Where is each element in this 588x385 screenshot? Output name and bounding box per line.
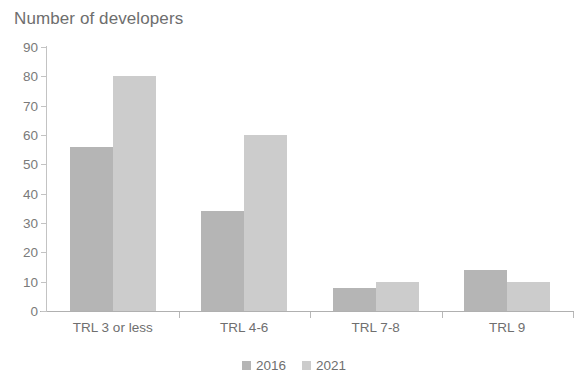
y-axis-tick-mark — [41, 47, 47, 48]
x-axis-tick-mark — [442, 312, 443, 318]
y-axis-tick-label: 90 — [23, 40, 38, 55]
legend-label: 2021 — [316, 358, 346, 373]
legend-item-2021[interactable]: 2021 — [302, 358, 346, 373]
x-axis-tick-mark — [310, 312, 311, 318]
legend-swatch-icon — [242, 361, 251, 370]
y-axis-tick-mark — [41, 282, 47, 283]
bar-2021-trl-4-6 — [244, 135, 287, 311]
y-axis-tick-mark — [41, 194, 47, 195]
bar-group — [201, 47, 287, 311]
x-axis-category-label: TRL 4-6 — [220, 320, 268, 335]
y-axis-tick-mark — [41, 223, 47, 224]
bar-group — [70, 47, 156, 311]
bar-2021-trl-7-8 — [376, 282, 419, 311]
x-axis-category-label: TRL 3 or less — [73, 320, 153, 335]
legend-item-2016[interactable]: 2016 — [242, 358, 286, 373]
y-axis-tick-label: 80 — [23, 69, 38, 84]
x-axis-category-label: TRL 9 — [489, 320, 525, 335]
chart-legend: 20162021 — [0, 358, 588, 373]
x-axis-tick-mark — [573, 312, 574, 318]
bar-2016-trl-3-or-less — [70, 147, 113, 311]
legend-label: 2016 — [256, 358, 286, 373]
y-axis-tick-label: 0 — [30, 304, 38, 319]
y-axis-tick-label: 20 — [23, 245, 38, 260]
y-axis-tick-label: 70 — [23, 98, 38, 113]
bar-2016-trl-7-8 — [333, 288, 376, 311]
y-axis-tick-label: 60 — [23, 128, 38, 143]
y-axis-tick-label: 30 — [23, 216, 38, 231]
bar-group — [464, 47, 550, 311]
x-axis-tick-mark — [179, 312, 180, 318]
legend-swatch-icon — [302, 361, 311, 370]
bar-2021-trl-9 — [507, 282, 550, 311]
y-axis-tick-label: 50 — [23, 157, 38, 172]
y-axis-tick-mark — [41, 135, 47, 136]
y-axis-tick-label: 40 — [23, 186, 38, 201]
y-axis-tick-mark — [41, 252, 47, 253]
bar-2016-trl-4-6 — [201, 211, 244, 311]
y-axis-tick-mark — [41, 106, 47, 107]
x-axis-category-label: TRL 7-8 — [352, 320, 400, 335]
bar-2021-trl-3-or-less — [113, 76, 156, 311]
y-axis-tick-mark — [41, 76, 47, 77]
x-axis-line — [40, 311, 574, 312]
bar-2016-trl-9 — [464, 270, 507, 311]
y-axis-tick-mark — [41, 311, 47, 312]
y-axis-tick-mark — [41, 164, 47, 165]
bar-chart: Number of developers 0102030405060708090… — [0, 0, 588, 385]
bar-group — [333, 47, 419, 311]
plot-area: 0102030405060708090 — [47, 47, 573, 311]
chart-title: Number of developers — [14, 9, 183, 29]
y-axis-tick-label: 10 — [23, 274, 38, 289]
